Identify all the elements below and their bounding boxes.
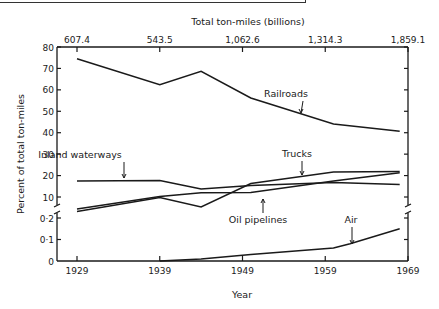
y-axis-label: Percent of total ton-miles	[15, 94, 26, 214]
y-tick-label: 50	[43, 107, 55, 117]
x-tick-label: 1959	[314, 266, 337, 276]
top-tick-label: 1,859.1	[391, 35, 425, 45]
series-air	[160, 229, 400, 261]
y-tick-label: 10	[43, 193, 55, 203]
y-tick-label: 20	[43, 171, 55, 181]
top-tick-label: 1,314.3	[308, 35, 342, 45]
x-tick-label: 1939	[148, 266, 171, 276]
series-inland-waterways	[77, 181, 400, 189]
y-tick-label: 0	[48, 257, 54, 267]
annotation-label: Railroads	[264, 88, 308, 99]
series-railroads	[77, 59, 400, 131]
y-tick-label: 0·1	[40, 235, 54, 245]
x-tick-label: 1949	[231, 266, 254, 276]
y-tick-label: 40	[43, 128, 55, 138]
annotations: RailroadsTrucksInland waterwaysOil pipel…	[38, 88, 357, 244]
x-tick-label: 1929	[66, 266, 89, 276]
line-chart: 80706050403020100·20·1019291939194919591…	[0, 0, 439, 309]
y-tick-label: 70	[43, 64, 55, 74]
y-tick-label: 60	[43, 85, 55, 95]
top-tick-label: 543.5	[147, 35, 173, 45]
annotation-label: Air	[344, 214, 357, 225]
right-axis-break-icon	[405, 204, 411, 214]
top-tick-label: 1,062.6	[225, 35, 260, 45]
annotation-label: Trucks	[281, 148, 312, 159]
annotation-label: Oil pipelines	[229, 214, 287, 225]
series-lines	[77, 59, 400, 261]
y-axis-break-icon	[54, 204, 60, 214]
y-tick-label: 0·2	[40, 214, 54, 224]
x-tick-label: 1969	[397, 266, 420, 276]
top-tick-label: 607.4	[64, 35, 90, 45]
x-axis-label: Year	[231, 289, 252, 300]
annotation-label: Inland waterways	[38, 149, 122, 160]
top-axis-label: Total ton-miles (billions)	[190, 16, 304, 27]
series-trucks	[77, 172, 400, 212]
y-tick-label: 80	[43, 43, 55, 53]
